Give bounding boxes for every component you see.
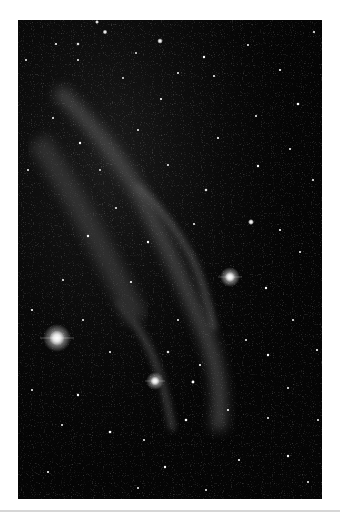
- page: astronomical photograph of a faint emiss…: [0, 0, 340, 516]
- nebula-photograph: [18, 20, 322, 499]
- star-field: [18, 20, 322, 499]
- separator-line: [0, 510, 340, 512]
